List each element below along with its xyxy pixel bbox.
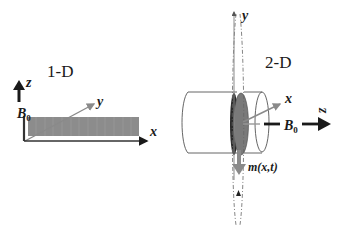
cylinder (182, 92, 269, 153)
cylinder-left-cap (182, 92, 188, 153)
b0-label-1d: B0 (16, 106, 31, 123)
b0-arrowhead-2d (318, 117, 331, 131)
figure-canvas: 1-D y x (0, 0, 343, 232)
panel-1d-title: 1-D (47, 62, 73, 81)
b0-label-2d: B0 (283, 118, 298, 135)
x-axis-label-1d: x (149, 124, 157, 139)
y-axis-label-1d: y (95, 94, 104, 109)
small-up-arrowhead (236, 190, 241, 196)
b0-arrowhead-1d (13, 80, 25, 90)
slab-rect (28, 117, 139, 136)
slab-1d (28, 117, 139, 136)
x-axis-label-2d: x (284, 91, 292, 106)
panel-2d: 2-D y x B0 z (182, 8, 331, 225)
z-axis-label-1d: z (25, 75, 32, 90)
cylinder-right-cap (255, 92, 269, 152)
z-axis-label-2d: z (314, 107, 329, 114)
panel-2d-title: 2-D (265, 53, 291, 72)
panel-1d: 1-D y x (13, 62, 157, 141)
y-axis-label-2d: y (240, 8, 249, 23)
m-label: m(x,t) (248, 160, 278, 174)
x-axis-2d (243, 104, 280, 122)
m-arrow-shaft (237, 150, 241, 166)
